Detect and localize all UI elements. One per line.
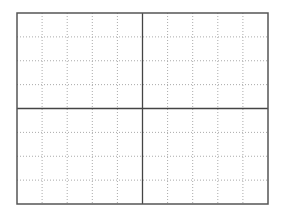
grid-diagram [0,0,283,218]
